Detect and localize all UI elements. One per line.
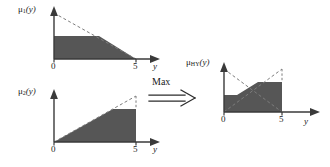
chart-muHY: μHY(y) 0 5 y <box>186 55 330 133</box>
mu2-shaded-region <box>54 109 136 142</box>
mu2-tick-label-5: 5 <box>133 145 138 154</box>
mu1-axis-label: μ1(y) <box>18 5 36 14</box>
muHY-subscript: HY <box>191 61 200 67</box>
mu1-x-axis-label: y <box>153 62 157 71</box>
mu2-plot <box>18 84 163 156</box>
muHY-tick-label-0: 0 <box>221 115 226 124</box>
muHY-shaded-region <box>224 82 282 112</box>
mu1-tick-label-0: 0 <box>51 62 56 71</box>
mu1-shaded-region <box>54 36 136 59</box>
figure-canvas: μ1(y) 0 5 y μ2(y) <box>0 0 330 167</box>
muHY-x-axis-arrowhead <box>310 108 320 116</box>
mu2-tick-label-0: 0 <box>51 145 56 154</box>
muHY-y-axis-arrowhead <box>220 62 228 72</box>
mu1-tick-label-5: 5 <box>133 62 138 71</box>
muHY-x-axis-label: y <box>304 117 308 126</box>
muHY-argument: (y) <box>200 57 210 67</box>
chart-mu2: μ2(y) 0 5 y <box>18 84 163 156</box>
mu1-y-axis-arrowhead <box>50 6 58 16</box>
mu1-plot <box>18 2 163 72</box>
mu1-argument: (y) <box>26 4 36 14</box>
mu2-y-axis-arrowhead <box>50 89 58 99</box>
muHY-axis-label: μHY(y) <box>186 58 210 67</box>
max-operator-label: Max <box>152 76 170 87</box>
chart-mu1: μ1(y) 0 5 y <box>18 2 163 72</box>
mu2-x-axis-label: y <box>153 145 157 154</box>
mu2-argument: (y) <box>26 86 36 96</box>
muHY-tick-label-5: 5 <box>279 115 284 124</box>
mu2-axis-label: μ2(y) <box>18 87 36 96</box>
